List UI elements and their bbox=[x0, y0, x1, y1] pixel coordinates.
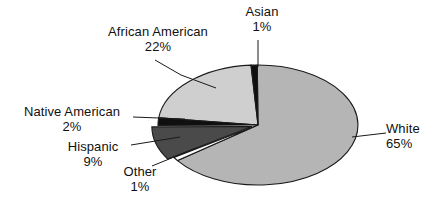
label-african-american-name: African American bbox=[96, 24, 220, 39]
label-african-american: African American 22% bbox=[96, 24, 220, 55]
pie-chart-figure: African American 22% Asian 1% Native Ame… bbox=[0, 0, 444, 211]
label-other: Other 1% bbox=[108, 164, 172, 195]
label-asian-name: Asian bbox=[232, 4, 292, 19]
label-native-american-name: Native American bbox=[6, 104, 138, 119]
label-white-percent: 65% bbox=[386, 136, 438, 151]
label-asian-percent: 1% bbox=[232, 19, 292, 34]
label-native-american-percent: 2% bbox=[6, 119, 138, 134]
label-white-name: White bbox=[386, 121, 438, 136]
pie-slices bbox=[152, 65, 358, 185]
label-african-american-percent: 22% bbox=[96, 39, 220, 54]
label-asian: Asian 1% bbox=[232, 4, 292, 35]
label-other-name: Other bbox=[108, 164, 172, 179]
label-native-american: Native American 2% bbox=[6, 104, 138, 135]
pie-slice-african-american[interactable] bbox=[159, 65, 258, 125]
label-hispanic-name: Hispanic bbox=[54, 139, 132, 154]
label-other-percent: 1% bbox=[108, 179, 172, 194]
label-white: White 65% bbox=[386, 121, 438, 152]
